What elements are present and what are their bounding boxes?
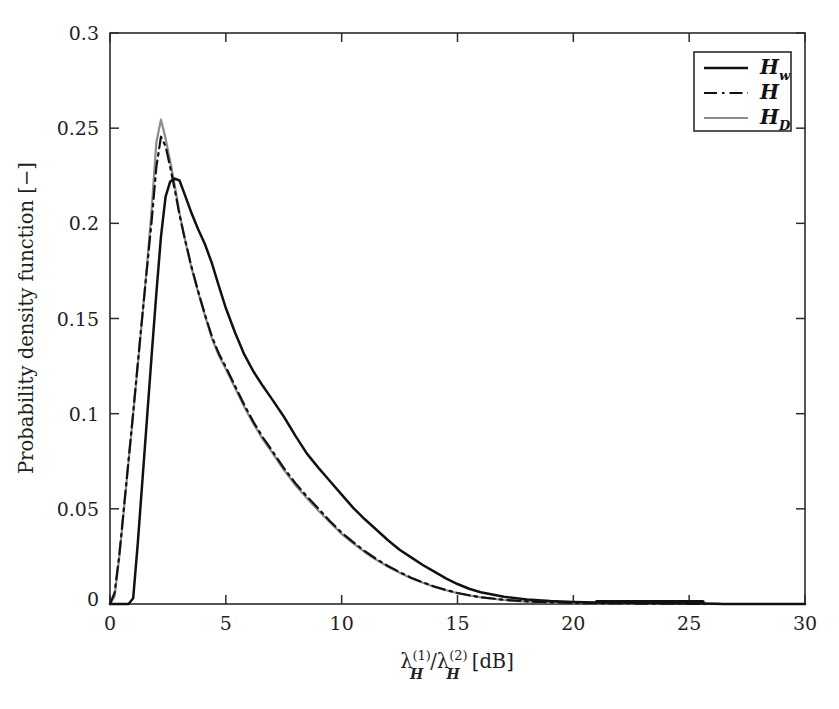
chart-canvas: 051015202530 00.050.10.150.20.250.3 Prob… [0, 0, 839, 709]
y-tick-label: 0.2 [69, 212, 99, 234]
x-axis-title-sup2: (2) [449, 648, 467, 663]
x-tick-label: 10 [330, 612, 354, 634]
y-tick-label: 0.1 [69, 403, 99, 425]
legend-label-base: H [759, 55, 780, 79]
x-axis-title-units: [dB] [472, 650, 514, 673]
x-axis-title-sub2: H [446, 666, 461, 682]
y-tick-label: 0.25 [57, 117, 99, 139]
legend: HwHHD [694, 52, 791, 133]
x-tick-label: 30 [793, 612, 817, 634]
x-tick-label: 0 [104, 612, 116, 634]
legend-label-subscript: w [779, 68, 791, 83]
legend-label-subscript: D [778, 118, 791, 133]
y-tick-label: 0.15 [57, 308, 99, 330]
figure-container: 051015202530 00.050.10.150.20.250.3 Prob… [0, 0, 839, 709]
legend-label-H: H [759, 80, 780, 104]
x-tick-label: 15 [445, 612, 469, 634]
x-tick-label: 5 [220, 612, 232, 634]
x-axis-title-sub1: H [409, 666, 424, 682]
legend-label-base: H [759, 105, 780, 129]
y-tick-label: 0.05 [57, 498, 99, 520]
y-tick-label: 0 [87, 588, 99, 610]
y-axis-title: Probability density function [−] [15, 162, 38, 474]
x-axis-title-sup1: (1) [413, 648, 431, 663]
x-tick-label: 25 [677, 612, 701, 634]
y-tick-label: 0.3 [69, 22, 99, 44]
x-tick-label: 20 [561, 612, 585, 634]
legend-label-base: H [759, 80, 780, 104]
